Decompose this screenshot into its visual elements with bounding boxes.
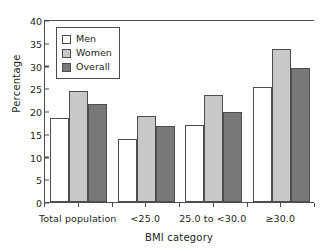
y-tick-40: 40 (30, 16, 45, 27)
plot-area: 0510152025303540 MenWomenOverall (44, 20, 314, 202)
y-tick-20: 20 (30, 107, 45, 118)
y-axis-title: Percentage (11, 36, 22, 132)
bar-men[interactable] (118, 139, 137, 202)
x-boundary-tick-mark (247, 203, 248, 207)
bar-group (180, 21, 248, 202)
x-axis-title: BMI category (38, 232, 320, 243)
x-tick-mark (78, 203, 79, 207)
x-boundary-tick-mark (179, 203, 180, 207)
y-tick-label: 10 (30, 152, 45, 163)
bar-women[interactable] (204, 95, 223, 202)
x-boundary-tick-mark (314, 203, 315, 207)
bar-men[interactable] (50, 118, 69, 202)
x-tick-label: 25.0 to <30.0 (179, 213, 246, 224)
x-boundary-tick-mark (44, 203, 45, 207)
legend: MenWomenOverall (56, 27, 120, 79)
bar-overall[interactable] (156, 126, 175, 202)
legend-swatch-icon (62, 63, 71, 72)
y-tick-5: 5 (36, 175, 45, 186)
x-tick-label: <25.0 (130, 213, 160, 224)
bar-men[interactable] (185, 125, 204, 202)
bar-women[interactable] (272, 49, 291, 202)
y-tick-label: 5 (36, 175, 45, 186)
y-tick-30: 30 (30, 61, 45, 72)
x-tick-mark (213, 203, 214, 207)
y-tick-15: 15 (30, 129, 45, 140)
legend-item-men[interactable]: Men (62, 32, 112, 46)
y-tick-25: 25 (30, 84, 45, 95)
y-tick-label: 25 (30, 84, 45, 95)
legend-label: Men (76, 34, 96, 44)
x-axis: Total population<25.025.0 to <30.0≥30.0 (44, 202, 314, 203)
legend-item-overall[interactable]: Overall (62, 60, 112, 74)
bar-women[interactable] (69, 91, 88, 202)
x-tick-label: ≥30.0 (265, 213, 295, 224)
legend-swatch-icon (62, 49, 71, 58)
bar-men[interactable] (253, 87, 272, 202)
legend-swatch-icon (62, 35, 71, 44)
y-tick-10: 10 (30, 152, 45, 163)
bar-group (248, 21, 316, 202)
y-tick-label: 15 (30, 129, 45, 140)
y-tick-label: 40 (30, 16, 45, 27)
legend-item-women[interactable]: Women (62, 46, 112, 60)
bar-women[interactable] (137, 116, 156, 202)
bar-chart-figure: Percentage 0510152025303540 MenWomenOver… (0, 0, 323, 251)
y-tick-label: 30 (30, 61, 45, 72)
bar-overall[interactable] (291, 68, 310, 202)
x-boundary-tick-mark (112, 203, 113, 207)
x-tick-mark (280, 203, 281, 207)
bar-overall[interactable] (88, 104, 107, 202)
y-tick-35: 35 (30, 38, 45, 49)
x-tick-mark (145, 203, 146, 207)
legend-label: Women (76, 48, 112, 58)
x-tick-label: Total population (39, 213, 116, 224)
y-tick-label: 35 (30, 38, 45, 49)
legend-label: Overall (76, 62, 110, 72)
bar-overall[interactable] (223, 112, 242, 202)
y-tick-label: 20 (30, 107, 45, 118)
bar-group (113, 21, 181, 202)
